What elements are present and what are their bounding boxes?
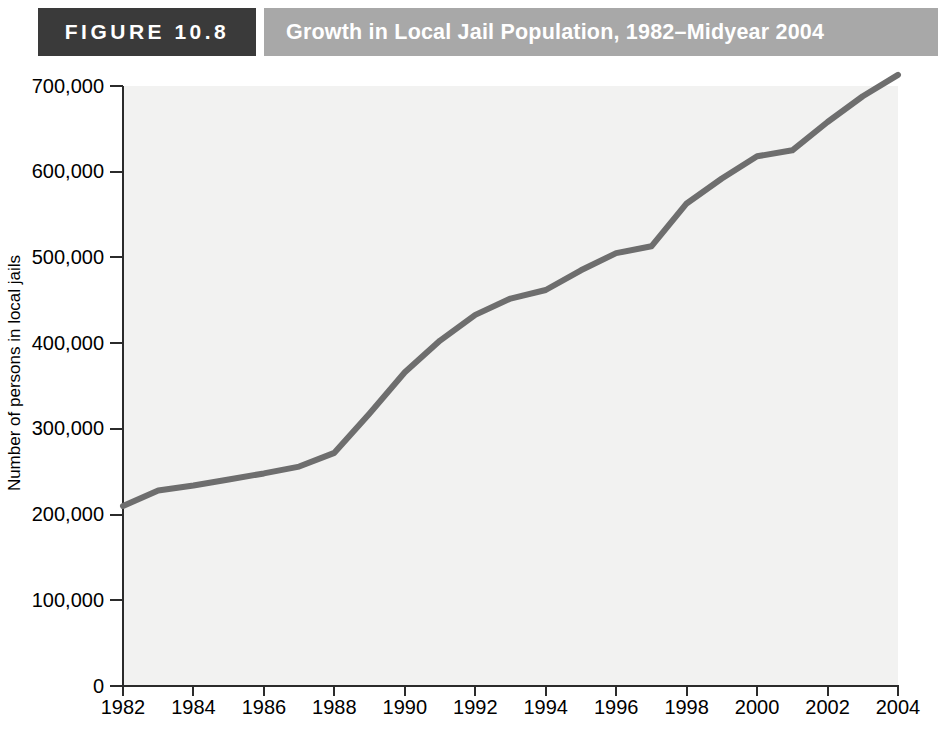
x-tick-mark (545, 687, 547, 696)
x-tick-label: 1986 (224, 696, 304, 719)
chart-region: Number of persons in local jails 700,000… (0, 60, 938, 743)
x-tick-mark (827, 687, 829, 696)
x-tick-label: 1996 (576, 696, 656, 719)
x-tick-label: 1998 (647, 696, 727, 719)
y-tick-mark (110, 342, 123, 344)
x-tick-mark (897, 687, 899, 696)
figure-number-label: FIGURE 10.8 (65, 20, 230, 44)
x-tick-mark (404, 687, 406, 696)
x-tick-mark (122, 687, 124, 696)
x-tick-label: 1992 (435, 696, 515, 719)
y-tick-label: 700,000 (0, 75, 104, 97)
y-tick-label: 600,000 (0, 161, 104, 183)
x-tick-mark (615, 687, 617, 696)
y-tick-label: 500,000 (0, 246, 104, 268)
plot-area (123, 86, 898, 686)
x-tick-label: 1990 (365, 696, 445, 719)
x-tick-mark (474, 687, 476, 696)
x-tick-label: 2004 (858, 696, 938, 719)
x-tick-mark (192, 687, 194, 696)
figure-number-box: FIGURE 10.8 (38, 8, 256, 56)
x-tick-label: 2000 (717, 696, 797, 719)
y-tick-mark (110, 514, 123, 516)
header-divider (256, 8, 264, 56)
y-tick-label: 200,000 (0, 504, 104, 526)
y-tick-label: 0 (0, 675, 104, 697)
x-tick-label: 1994 (506, 696, 586, 719)
x-tick-label: 1982 (83, 696, 163, 719)
y-tick-mark (110, 599, 123, 601)
y-tick-mark (110, 428, 123, 430)
figure-title-label: Growth in Local Jail Population, 1982–Mi… (286, 20, 824, 45)
y-axis-ticks: 700,000600,000500,000400,000300,000200,0… (0, 60, 123, 743)
x-tick-mark (263, 687, 265, 696)
x-tick-mark (333, 687, 335, 696)
y-tick-mark (110, 171, 123, 173)
x-tick-mark (756, 687, 758, 696)
x-tick-mark (686, 687, 688, 696)
x-tick-label: 1988 (294, 696, 374, 719)
x-axis-line (122, 685, 899, 687)
y-tick-mark (110, 85, 123, 87)
figure-header: FIGURE 10.8 Growth in Local Jail Populat… (38, 8, 938, 56)
y-tick-label: 100,000 (0, 589, 104, 611)
y-tick-mark (110, 256, 123, 258)
y-tick-label: 300,000 (0, 418, 104, 440)
x-tick-label: 2002 (788, 696, 868, 719)
figure-title-box: Growth in Local Jail Population, 1982–Mi… (264, 8, 938, 56)
y-tick-label: 400,000 (0, 332, 104, 354)
x-tick-label: 1984 (153, 696, 233, 719)
